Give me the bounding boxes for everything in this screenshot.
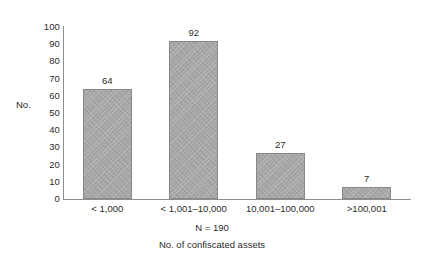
bar-group: 27	[256, 27, 305, 199]
bar	[83, 89, 132, 199]
y-axis-tick-label: 20	[24, 160, 60, 170]
bar-group: 7	[342, 27, 391, 199]
x-axis-line	[63, 199, 411, 200]
x-axis-tick-label: >100,001	[347, 203, 387, 215]
y-axis-tick-label: 10	[24, 177, 60, 187]
y-axis-tick-label: 60	[24, 91, 60, 101]
bar-group: 64	[83, 27, 132, 199]
y-axis-tick-label: 80	[24, 56, 60, 66]
sample-size-annotation: N = 190	[0, 222, 424, 234]
y-axis-tick-label: 50	[24, 108, 60, 118]
x-axis-title: No. of confiscated assets	[0, 239, 424, 251]
plot-area: 6492277	[64, 27, 410, 199]
y-axis-tick-label: 40	[24, 125, 60, 135]
bar-value-label: 92	[188, 28, 199, 38]
y-axis-tick-labels: 0102030405060708090100	[20, 0, 60, 258]
y-axis-tick-label: 90	[24, 39, 60, 49]
bar-chart-figure: No. 0102030405060708090100 6492277 < 1,0…	[0, 0, 424, 258]
bar	[169, 41, 218, 199]
y-axis-tick-label: 100	[24, 22, 60, 32]
bar-value-label: 7	[364, 174, 369, 184]
y-axis-tick-label: 70	[24, 74, 60, 84]
bar-group: 92	[169, 27, 218, 199]
x-axis-tick-label: 10,001–100,000	[246, 203, 315, 215]
bar-value-label: 27	[275, 140, 286, 150]
x-axis-tick-labels: < 1,000< 1,001–10,00010,001–100,000>100,…	[64, 203, 410, 219]
y-axis-tick-label: 0	[24, 194, 60, 204]
bar-value-label: 64	[102, 76, 113, 86]
x-axis-tick-label: < 1,000	[91, 203, 123, 215]
bar	[256, 153, 305, 199]
x-axis-tick-label: < 1,001–10,000	[161, 203, 227, 215]
y-axis-tick-label: 30	[24, 142, 60, 152]
bar	[342, 187, 391, 199]
